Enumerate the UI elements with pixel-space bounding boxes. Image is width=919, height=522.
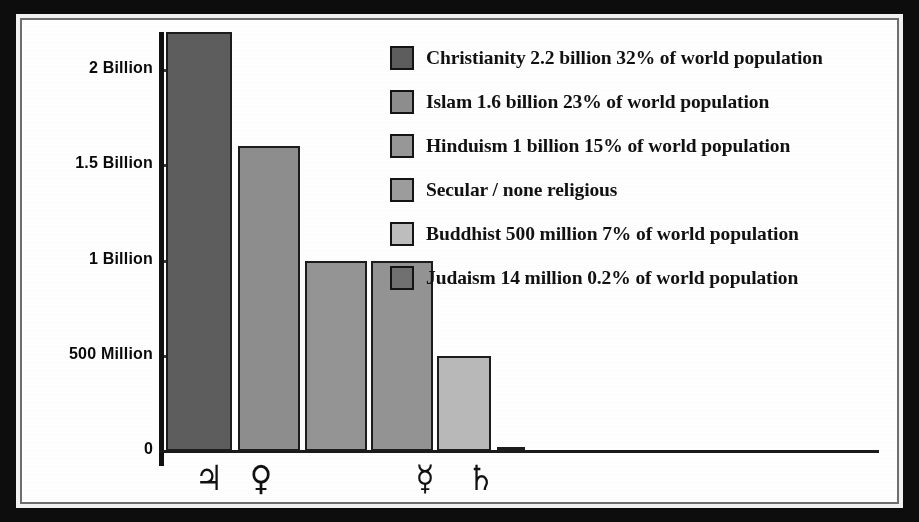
bar-christianity [166, 32, 232, 451]
y-axis-tick-label: 500 Million [69, 345, 153, 363]
legend-swatch-icon [390, 46, 414, 70]
legend-item: Christianity 2.2 billion 32% of world po… [390, 36, 890, 80]
legend-item-label: Buddhist 500 million 7% of world populat… [426, 223, 799, 245]
legend-item-label: Secular / none religious [426, 179, 617, 201]
legend-swatch-icon [390, 222, 414, 246]
legend: Christianity 2.2 billion 32% of world po… [390, 36, 890, 300]
mercury-symbol: ☿ [400, 453, 450, 502]
y-axis-tick-label: 1.5 Billion [75, 154, 153, 172]
legend-item: Hinduism 1 billion 15% of world populati… [390, 124, 890, 168]
y-axis-labels: 2 Billion1.5 Billion1 Billion500 Million… [22, 20, 153, 480]
x-axis-symbols: ♃♀☿♄ [164, 453, 879, 499]
legend-swatch-icon [390, 134, 414, 158]
legend-item: Islam 1.6 billion 23% of world populatio… [390, 80, 890, 124]
legend-item-label: Islam 1.6 billion 23% of world populatio… [426, 91, 769, 113]
y-axis-tick-label: 1 Billion [89, 250, 153, 268]
venus-symbol: ♀ [236, 453, 286, 502]
legend-swatch-icon [390, 178, 414, 202]
legend-swatch-icon [390, 266, 414, 290]
legend-item-label: Christianity 2.2 billion 32% of world po… [426, 47, 823, 69]
y-axis-tick-label: 2 Billion [89, 59, 153, 77]
legend-item-label: Judaism 14 million 0.2% of world populat… [426, 267, 798, 289]
photo-frame: 2 Billion1.5 Billion1 Billion500 Million… [0, 0, 919, 522]
bar-chart: 2 Billion1.5 Billion1 Billion500 Million… [22, 20, 897, 502]
bar-buddhist [437, 356, 491, 451]
legend-item: Judaism 14 million 0.2% of world populat… [390, 256, 890, 300]
bar-judaism [497, 447, 525, 451]
jupiter-symbol: ♃ [184, 453, 234, 502]
legend-item: Buddhist 500 million 7% of world populat… [390, 212, 890, 256]
saturn-symbol: ♄ [456, 453, 506, 502]
legend-item-label: Hinduism 1 billion 15% of world populati… [426, 135, 790, 157]
bar-hinduism [305, 261, 367, 451]
legend-item: Secular / none religious [390, 168, 890, 212]
legend-swatch-icon [390, 90, 414, 114]
bar-islam [238, 146, 300, 451]
y-axis-tick-label: 0 [144, 440, 153, 458]
